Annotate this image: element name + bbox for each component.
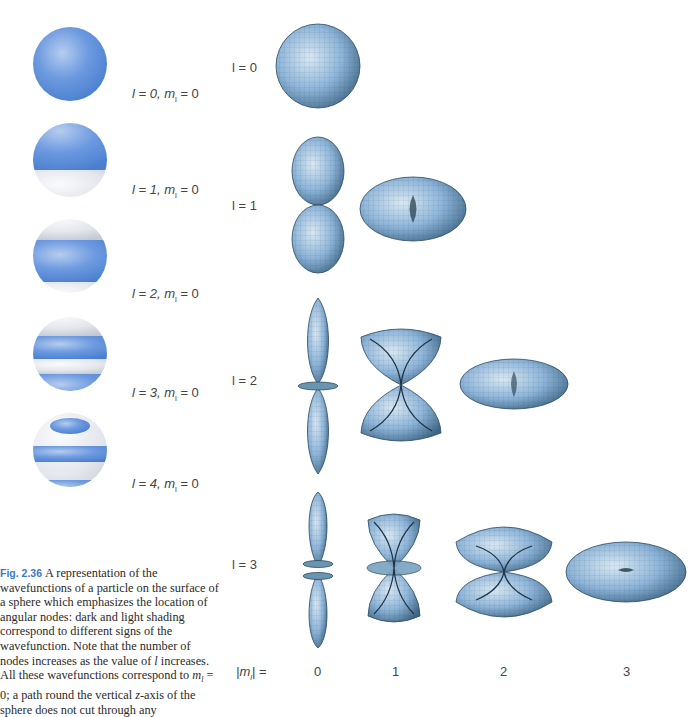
- figure-caption: Fig. 2.36A representation of the wavefun…: [0, 566, 222, 717]
- sphere-label-l1: l = 1, ml = 0: [132, 182, 199, 200]
- sphere-l0: [20, 14, 120, 114]
- sphere-l1: [20, 110, 120, 210]
- sphere-label-l2: l = 2, ml = 0: [132, 286, 199, 304]
- column-label-1: 1: [392, 664, 399, 679]
- sphere-label-l4: l = 4, ml = 0: [132, 476, 199, 494]
- column-label-3: 3: [623, 664, 630, 679]
- orbital-l2-m0: [296, 296, 340, 476]
- figure-number: Fig. 2.36: [0, 567, 42, 579]
- sphere-label-l3: l = 3, ml = 0: [132, 385, 199, 403]
- orbital-l2-m2: [458, 357, 570, 411]
- column-label-0: 0: [314, 664, 321, 679]
- orbital-l3-m0: [296, 490, 340, 650]
- sphere-l4: [20, 400, 120, 500]
- orbital-l3-m2: [454, 520, 554, 624]
- orbital-l1-m0: [290, 135, 346, 275]
- row-label-l1: l = 1: [232, 198, 257, 213]
- sphere-l2: [20, 206, 120, 306]
- row-label-l2: l = 2: [232, 373, 257, 388]
- row-label-l0: l = 0: [232, 60, 257, 75]
- sphere-l3: [20, 304, 120, 404]
- orbital-l0-m0: [274, 22, 362, 110]
- orbital-l3-m1: [364, 510, 424, 626]
- column-header-ml: |ml| =: [236, 664, 267, 682]
- column-label-2: 2: [500, 664, 507, 679]
- sphere-label-l0: l = 0, ml = 0: [132, 86, 199, 104]
- row-label-l3: l = 3: [232, 557, 257, 572]
- orbital-l1-m1: [358, 175, 468, 243]
- orbital-l3-m3: [564, 540, 688, 604]
- orbital-l2-m1: [358, 325, 444, 445]
